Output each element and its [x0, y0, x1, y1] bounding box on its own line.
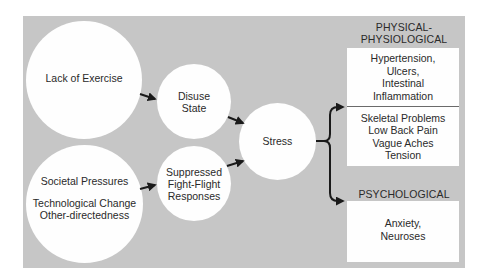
arrows-layer — [0, 0, 487, 280]
arrow-disuse-to-stress — [228, 117, 243, 123]
brace-stress-to-outcomes — [316, 107, 343, 141]
arrow-suppressed-to-stress — [227, 161, 243, 166]
arrow-societal-to-suppressed — [140, 185, 155, 189]
arrow-lack-exercise-to-disuse — [140, 94, 155, 99]
